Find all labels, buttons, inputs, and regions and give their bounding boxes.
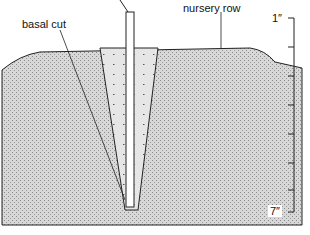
planting-cross-section [0,0,310,235]
cutting [126,12,134,207]
ruler-bottom-label: 7″ [268,205,282,217]
nursery-row-label: nursery row [183,2,240,14]
basal-cut-label: basal cut [22,18,66,30]
ruler-top-label: 1″ [272,12,282,24]
